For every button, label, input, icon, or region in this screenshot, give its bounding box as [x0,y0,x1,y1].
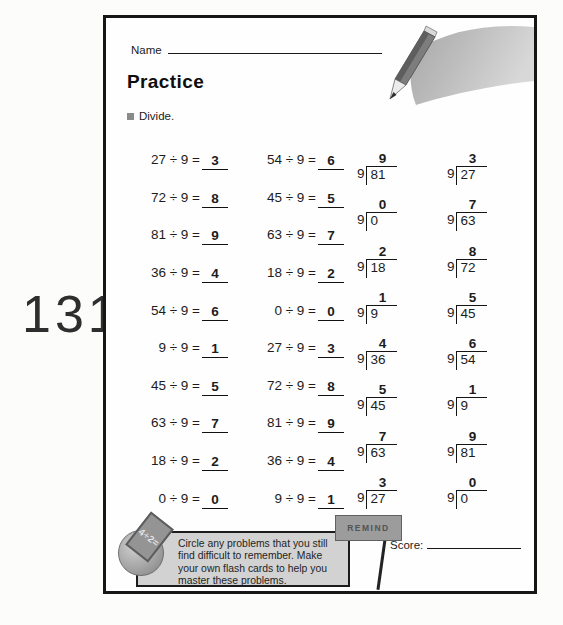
quotient-answer[interactable]: 0 [367,198,398,212]
equation-answer-blank[interactable]: 3 [202,153,228,170]
equation-answer-blank[interactable]: 9 [202,228,228,245]
quotient-answer[interactable]: 9 [457,430,488,444]
equation-answer-blank[interactable]: 2 [202,454,228,471]
equation-answer-blank[interactable]: 8 [318,379,344,396]
divisor: 9 [447,166,456,185]
long-division-row: 7 9 63 9 9 81 [357,430,489,476]
quotient-answer[interactable]: 1 [457,383,488,397]
badge-text: 4÷2= [137,525,162,548]
quotient-answer[interactable]: 9 [367,152,398,166]
equation-answer-blank[interactable]: 7 [318,228,344,245]
dividend: 63 [366,444,397,463]
long-division-row: 1 9 9 5 9 45 [357,291,489,337]
long-division-problem: 3 9 27 [357,476,399,509]
long-division-problem: 2 9 18 [357,245,399,278]
flash-card-ball-badge-icon: 4÷2= [118,515,172,577]
dividend: 81 [366,166,397,185]
dividend: 9 [456,397,487,416]
equation-row: 45 ÷ 9 = 5 72 ÷ 9 = 8 [106,367,356,405]
divisor: 9 [357,305,366,324]
equation-answer-blank[interactable]: 4 [202,266,228,283]
sign-pole [376,539,386,590]
equation-expression: 72 ÷ 9 = [128,190,200,205]
quotient-answer[interactable]: 3 [457,152,488,166]
dividend: 63 [456,212,487,231]
dividend: 81 [456,444,487,463]
square-bullet-icon [127,113,134,120]
dividend: 27 [456,166,487,185]
equation-expression: 9 ÷ 9 = [128,340,200,355]
divisor: 9 [357,490,366,509]
quotient-answer[interactable]: 3 [367,476,398,490]
equation-answer-blank[interactable]: 2 [318,266,344,283]
equation-answer-blank[interactable]: 8 [202,191,228,208]
divisor: 9 [447,305,456,324]
long-division-grid: 9 9 81 3 9 27 0 [357,152,489,522]
quotient-answer[interactable]: 2 [367,245,398,259]
equation-answer-blank[interactable]: 0 [318,304,344,321]
equation-expression: 36 ÷ 9 = [236,453,316,468]
division-bracket: 9 9 [447,397,489,416]
dividend: 72 [456,259,487,278]
equation-expression: 54 ÷ 9 = [236,152,316,167]
equation-expression: 36 ÷ 9 = [128,265,200,280]
score-input-line[interactable] [427,538,521,549]
dividend: 0 [366,212,397,231]
divisor: 9 [357,212,366,231]
equation-expression: 81 ÷ 9 = [236,415,316,430]
quotient-answer[interactable]: 5 [367,383,398,397]
quotient-answer[interactable]: 6 [457,337,488,351]
equation-answer-blank[interactable]: 7 [202,416,228,433]
quotient-answer[interactable]: 4 [367,337,398,351]
dividend: 0 [456,490,487,509]
equation-expression: 54 ÷ 9 = [128,303,200,318]
equation-answer-blank[interactable]: 1 [202,341,228,358]
quotient-answer[interactable]: 7 [367,430,398,444]
quotient-answer[interactable]: 8 [457,245,488,259]
division-bracket: 9 81 [357,166,399,185]
division-bracket: 9 54 [447,351,489,370]
divisor: 9 [447,351,456,370]
long-division-problem: 6 9 54 [447,337,489,370]
long-division-row: 2 9 18 8 9 72 [357,245,489,291]
dividend: 45 [456,305,487,324]
long-division-problem: 7 9 63 [447,198,489,231]
instruction-row: Divide. [127,110,174,122]
equation-answer-blank[interactable]: 9 [318,416,344,433]
long-division-problem: 5 9 45 [357,383,399,416]
score-row: Score: [390,538,521,551]
long-division-problem: 7 9 63 [357,430,399,463]
equation-expression: 27 ÷ 9 = [128,152,200,167]
quotient-answer[interactable]: 1 [367,291,398,305]
division-bracket: 9 45 [447,305,489,324]
equation-expression: 63 ÷ 9 = [236,227,316,242]
name-input-line[interactable] [168,42,382,54]
equation-answer-blank[interactable]: 4 [318,454,344,471]
long-division-problem: 1 9 9 [357,291,399,324]
quotient-answer[interactable]: 0 [457,476,488,490]
long-division-problem: 9 9 81 [357,152,399,185]
long-division-row: 9 9 81 3 9 27 [357,152,489,198]
equation-expression: 45 ÷ 9 = [236,190,316,205]
name-label: Name [131,44,162,56]
long-division-row: 0 9 0 7 9 63 [357,198,489,244]
division-bracket: 9 63 [357,444,399,463]
page-title: Practice [127,71,204,93]
equation-answer-blank[interactable]: 3 [318,341,344,358]
equation-answer-blank[interactable]: 0 [202,492,228,509]
remind-sign-icon: REMIND [335,515,402,541]
quotient-answer[interactable]: 7 [457,198,488,212]
divisor: 9 [447,212,456,231]
division-bracket: 9 18 [357,259,399,278]
equation-answer-blank[interactable]: 5 [202,379,228,396]
divisor: 9 [357,351,366,370]
equation-answer-blank[interactable]: 6 [202,304,228,321]
instruction-text: Divide. [139,110,174,122]
equation-answer-blank[interactable]: 1 [318,492,344,509]
sign-text: REMIND [347,523,390,533]
equation-answer-blank[interactable]: 5 [318,191,344,208]
dividend: 9 [366,305,397,324]
quotient-answer[interactable]: 5 [457,291,488,305]
equation-answer-blank[interactable]: 6 [318,153,344,170]
long-division-problem: 1 9 9 [447,383,489,416]
